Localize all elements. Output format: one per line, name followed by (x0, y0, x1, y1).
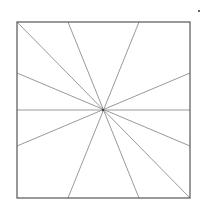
corner-dot-marker (198, 10, 200, 12)
radial-lines-diagram (0, 0, 201, 206)
center-point (102, 109, 105, 112)
